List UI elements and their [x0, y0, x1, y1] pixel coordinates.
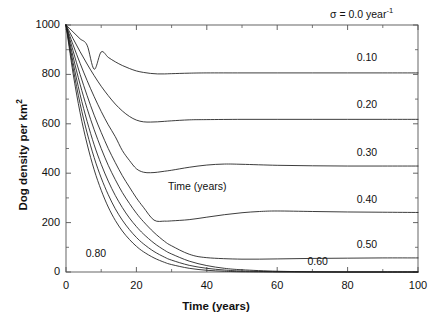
sigma-annotation-text: σ = 0.0 year — [330, 8, 386, 20]
y-tick-label: 200 — [20, 216, 60, 228]
curve-label-0.30: 0.30 — [357, 146, 377, 158]
x-tick-label: 100 — [398, 279, 432, 291]
x-tick-label: 80 — [328, 279, 368, 291]
y-tick-label: 0 — [20, 265, 60, 277]
y-tick-label: 600 — [20, 117, 60, 129]
sigma-annotation-superscript: -1 — [386, 6, 393, 15]
y-tick-label: 400 — [20, 166, 60, 178]
chart-figure: Dog density per km2 Time (years) σ = 0.0… — [0, 0, 432, 321]
x-tick-label: 60 — [257, 279, 297, 291]
x-tick-label: 0 — [46, 279, 86, 291]
curve-label-0.50: 0.50 — [357, 238, 377, 250]
curve-label-0.10: 0.10 — [357, 51, 377, 63]
curve-label-0.20: 0.20 — [357, 98, 377, 110]
x-tick-label: 40 — [187, 279, 227, 291]
curve-label-0.80: 0.80 — [86, 247, 106, 259]
x-axis-title: Time (years) — [0, 300, 432, 312]
x-tick-label: 20 — [116, 279, 156, 291]
plot-canvas — [0, 0, 432, 321]
y-tick-label: 1000 — [20, 18, 60, 30]
inner-time-note: Time (years) — [168, 180, 227, 192]
curve-sigma-0.10 — [66, 25, 418, 74]
curve-label-0.40: 0.40 — [357, 193, 377, 205]
y-axis-title: Dog density per km2 — [15, 85, 29, 225]
y-axis-title-superscript: 2 — [15, 99, 24, 104]
curve-label-0.60: 0.60 — [307, 255, 327, 267]
sigma-annotation: σ = 0.0 year-1 — [330, 6, 393, 20]
y-tick-label: 800 — [20, 67, 60, 79]
